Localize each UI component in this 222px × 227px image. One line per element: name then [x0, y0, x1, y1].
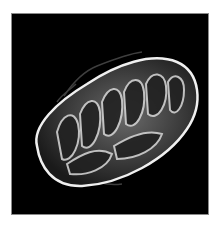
mitochondrion-image: [12, 14, 209, 215]
micrograph-frame: [11, 13, 209, 215]
